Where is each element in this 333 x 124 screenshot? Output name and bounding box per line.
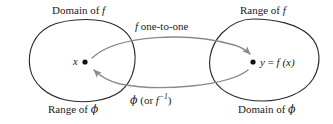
inverse-map-arrow [94, 70, 248, 88]
point-x [82, 59, 87, 64]
label-domain-of-f: Domain of f [52, 5, 105, 16]
label-range-of-f: Range of f [240, 5, 286, 16]
label-domain-of-phi: Domain of ϕ [238, 104, 296, 115]
point-y [250, 59, 255, 64]
label-inverse-map: ϕ (or f−1) [130, 93, 171, 106]
label-range-of-f-text: Range of [240, 4, 280, 16]
label-point-y-arg: (x) [282, 56, 294, 68]
label-f-one-to-one-var: f [135, 20, 138, 32]
label-range-of-phi-var: ϕ [91, 103, 99, 116]
label-point-y: y = f (x) [260, 57, 295, 68]
label-inverse-map-close: ) [168, 94, 172, 106]
label-point-y-var: y [260, 56, 265, 68]
label-domain-of-f-text: Domain of [52, 4, 99, 16]
label-f-one-to-one-text: one-to-one [141, 20, 189, 32]
label-range-of-phi: Range of ϕ [48, 104, 98, 115]
label-point-y-fn: f [277, 56, 280, 68]
left-set-outline [29, 20, 135, 102]
label-inverse-map-phi: ϕ [130, 94, 138, 107]
label-point-x: x [73, 57, 78, 68]
label-range-of-f-var: f [283, 4, 286, 16]
forward-map-arrow [92, 37, 250, 58]
function-inverse-diagram: Domain of f Range of f f one-to-one x y … [0, 0, 333, 124]
label-domain-of-phi-text: Domain of [238, 103, 285, 115]
label-inverse-map-exponent: −1 [159, 92, 168, 101]
label-range-of-phi-text: Range of [48, 103, 88, 115]
label-f-one-to-one: f one-to-one [135, 21, 188, 32]
label-domain-of-phi-var: ϕ [288, 103, 296, 116]
label-inverse-map-open: (or [140, 94, 153, 106]
label-domain-of-f-var: f [102, 4, 105, 16]
label-point-y-eq: = [268, 56, 274, 68]
label-point-x-var: x [73, 56, 78, 67]
